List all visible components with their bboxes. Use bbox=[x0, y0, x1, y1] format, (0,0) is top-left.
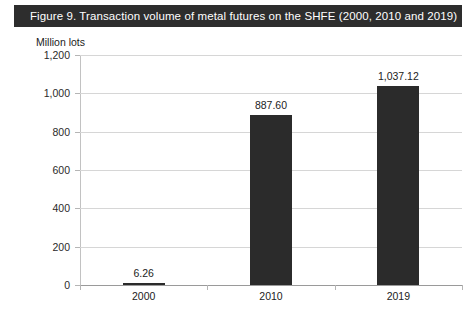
y-axis-tick-mark bbox=[75, 132, 80, 133]
gridline bbox=[80, 285, 462, 286]
x-axis-category-label-2000: 2000 bbox=[132, 290, 155, 302]
bar-value-label-2019: 1,037.12 bbox=[378, 70, 419, 82]
x-axis-tick-mark bbox=[462, 285, 463, 290]
y-axis-tick-label: 800 bbox=[26, 126, 70, 138]
y-axis-tick-label: 400 bbox=[26, 202, 70, 214]
bar-2019[interactable] bbox=[377, 86, 419, 285]
y-axis-unit-label: Million lots bbox=[36, 36, 85, 48]
y-axis-tick-label: 0 bbox=[26, 279, 70, 291]
y-axis-tick-label: 1,000 bbox=[26, 87, 70, 99]
figure-title-bar: Figure 9. Transaction volume of metal fu… bbox=[14, 5, 462, 27]
bar-value-label-2010: 887.60 bbox=[255, 99, 287, 111]
y-axis-tick-label: 1,200 bbox=[26, 49, 70, 61]
y-axis-tick-mark bbox=[75, 93, 80, 94]
bar-2000[interactable] bbox=[123, 283, 165, 285]
y-axis-tick-label: 200 bbox=[26, 241, 70, 253]
figure-title: Figure 9. Transaction volume of metal fu… bbox=[30, 10, 457, 22]
x-axis-tick-mark bbox=[335, 285, 336, 290]
y-axis-tick-mark bbox=[75, 170, 80, 171]
bar-value-label-2000: 6.26 bbox=[133, 267, 153, 279]
x-axis-category-label-2019: 2019 bbox=[387, 290, 410, 302]
y-axis-tick-label: 600 bbox=[26, 164, 70, 176]
bar-2010[interactable] bbox=[250, 115, 292, 285]
y-axis-tick-mark bbox=[75, 55, 80, 56]
plot-area: 6.26887.601,037.12 bbox=[80, 55, 462, 285]
x-axis-category-label-2010: 2010 bbox=[259, 290, 282, 302]
y-axis-tick-mark bbox=[75, 247, 80, 248]
x-axis-tick-mark bbox=[207, 285, 208, 290]
figure-container: Figure 9. Transaction volume of metal fu… bbox=[0, 0, 476, 311]
gridline bbox=[80, 55, 462, 56]
y-axis-tick-mark bbox=[75, 208, 80, 209]
x-axis-tick-mark bbox=[80, 285, 81, 290]
